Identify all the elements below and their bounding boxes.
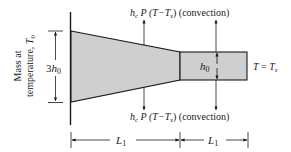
height-left-label: 3h0 <box>46 62 61 76</box>
mass-label: Mass at temperature, T0 <box>12 35 37 97</box>
fin-diagram: 3h0 Mass at temperature, T0 h0 hc P (T−T… <box>0 0 291 152</box>
convection-bottom-label: hc P (T−Ts) (convection) <box>130 111 229 124</box>
convection-top-label: hc P (T−Ts) (convection) <box>130 7 229 20</box>
length1-label: L1 <box>115 134 126 148</box>
length2-label: L1 <box>207 134 218 148</box>
svg-text:Mass at: Mass at <box>12 50 23 81</box>
svg-text:temperature, T0: temperature, T0 <box>24 35 37 97</box>
uniform-section <box>180 52 247 80</box>
tip-condition-label: T = Ts <box>253 61 278 74</box>
tapered-section <box>71 31 180 102</box>
